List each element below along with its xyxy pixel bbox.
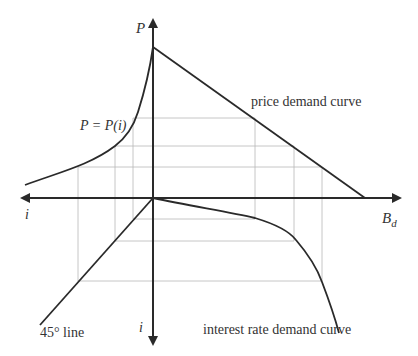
curves xyxy=(25,47,365,333)
interest-rate-demand-curve xyxy=(153,198,339,333)
curve-labels: P = P(i) price demand curve interest rat… xyxy=(40,94,361,340)
forty-five-degree-line xyxy=(40,198,153,325)
axis-label-i-down: i xyxy=(139,320,143,335)
axis-label-p: P xyxy=(135,20,145,36)
label-interest-rate-demand-curve: interest rate demand curve xyxy=(203,322,351,337)
label-45-degree-line: 45° line xyxy=(40,325,84,340)
price-demand-curve xyxy=(153,47,365,198)
four-quadrant-diagram: P i Bd i P = P(i) price demand curve int… xyxy=(0,0,418,356)
axis-label-i-left: i xyxy=(25,207,29,222)
axis-labels: P i Bd i xyxy=(25,20,397,335)
label-price-demand-curve: price demand curve xyxy=(251,94,361,109)
label-price-relation: P = P(i) xyxy=(79,118,127,134)
axis-label-bd: Bd xyxy=(382,210,397,229)
guide-lines xyxy=(78,118,322,281)
price-interest-curve xyxy=(25,47,153,185)
